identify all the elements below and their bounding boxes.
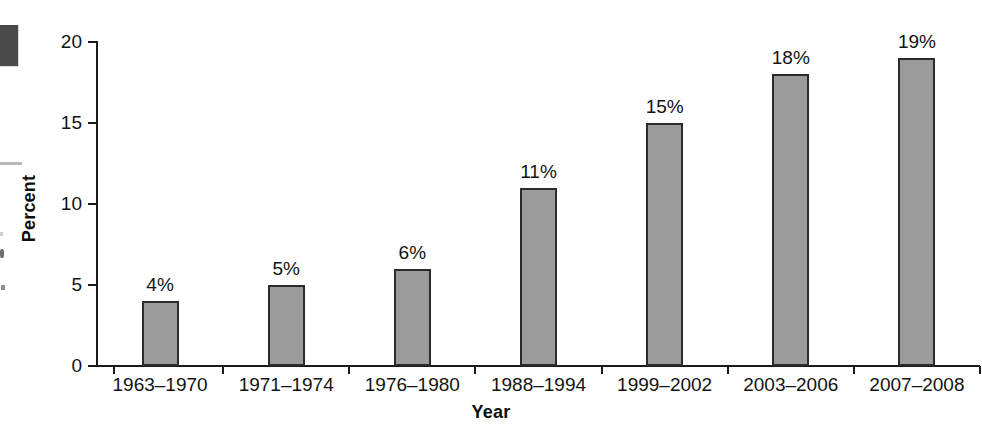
bar — [898, 58, 935, 366]
y-axis-tick-label-text: 0 — [36, 356, 82, 375]
bar — [268, 285, 305, 366]
x-axis-title: Year — [0, 402, 982, 423]
y-axis-tick — [88, 41, 97, 43]
bar — [142, 301, 179, 366]
bar-value-label: 11% — [494, 162, 584, 181]
bar-value-label: 6% — [367, 243, 457, 262]
x-axis-tick — [853, 366, 855, 374]
scan-artifact-speck-top — [0, 232, 3, 236]
y-axis-tick-label: 10 — [36, 194, 82, 213]
y-axis-tick — [88, 122, 97, 124]
y-axis-tick — [88, 365, 97, 367]
x-axis-tick-label: 1963–1970 — [97, 375, 223, 395]
bar-value-label: 5% — [241, 259, 331, 278]
scan-artifact-block — [0, 25, 19, 67]
y-axis-tick-label-text: 15 — [36, 113, 82, 132]
bar-chart-figure: Percent Year 05101520 4%1963–19705%1971–… — [0, 0, 982, 431]
x-axis-tick-label: 1999–2002 — [602, 375, 728, 395]
x-axis-tick — [601, 366, 603, 374]
y-axis-tick-label: 20 — [36, 32, 82, 51]
x-axis-tick — [979, 366, 981, 374]
y-axis-tick-label-text: 20 — [36, 32, 82, 51]
scan-artifact-speck-bottom — [1, 285, 5, 290]
bar-value-label: 19% — [872, 32, 962, 51]
bar — [394, 269, 431, 366]
x-axis-tick-label: 1976–1980 — [349, 375, 475, 395]
x-axis-tick-origin — [113, 366, 115, 374]
bar-value-label: 18% — [746, 48, 836, 67]
x-axis-tick — [222, 366, 224, 374]
x-axis-tick-label: 2007–2008 — [854, 375, 980, 395]
x-axis-tick — [474, 366, 476, 374]
y-axis-tick-label: 15 — [36, 113, 82, 132]
y-axis-tick-label-text: 5 — [36, 275, 82, 294]
bar — [520, 188, 557, 366]
bar — [772, 74, 809, 366]
x-axis-tick-label: 1988–1994 — [476, 375, 602, 395]
x-axis-tick — [727, 366, 729, 374]
bar-value-label: 15% — [620, 97, 710, 116]
x-axis-tick-label: 1971–1974 — [223, 375, 349, 395]
y-axis-tick — [88, 203, 97, 205]
bar-value-label: 4% — [115, 275, 205, 294]
x-axis-tick — [348, 366, 350, 374]
scan-artifact-speck-middle — [0, 249, 4, 258]
y-axis-tick-label: 0 — [36, 356, 82, 375]
y-axis-tick-label-text: 10 — [36, 194, 82, 213]
bar — [646, 123, 683, 366]
y-axis-tick — [88, 284, 97, 286]
x-axis-tick-label: 2003–2006 — [728, 375, 854, 395]
y-axis-tick-label: 5 — [36, 275, 82, 294]
